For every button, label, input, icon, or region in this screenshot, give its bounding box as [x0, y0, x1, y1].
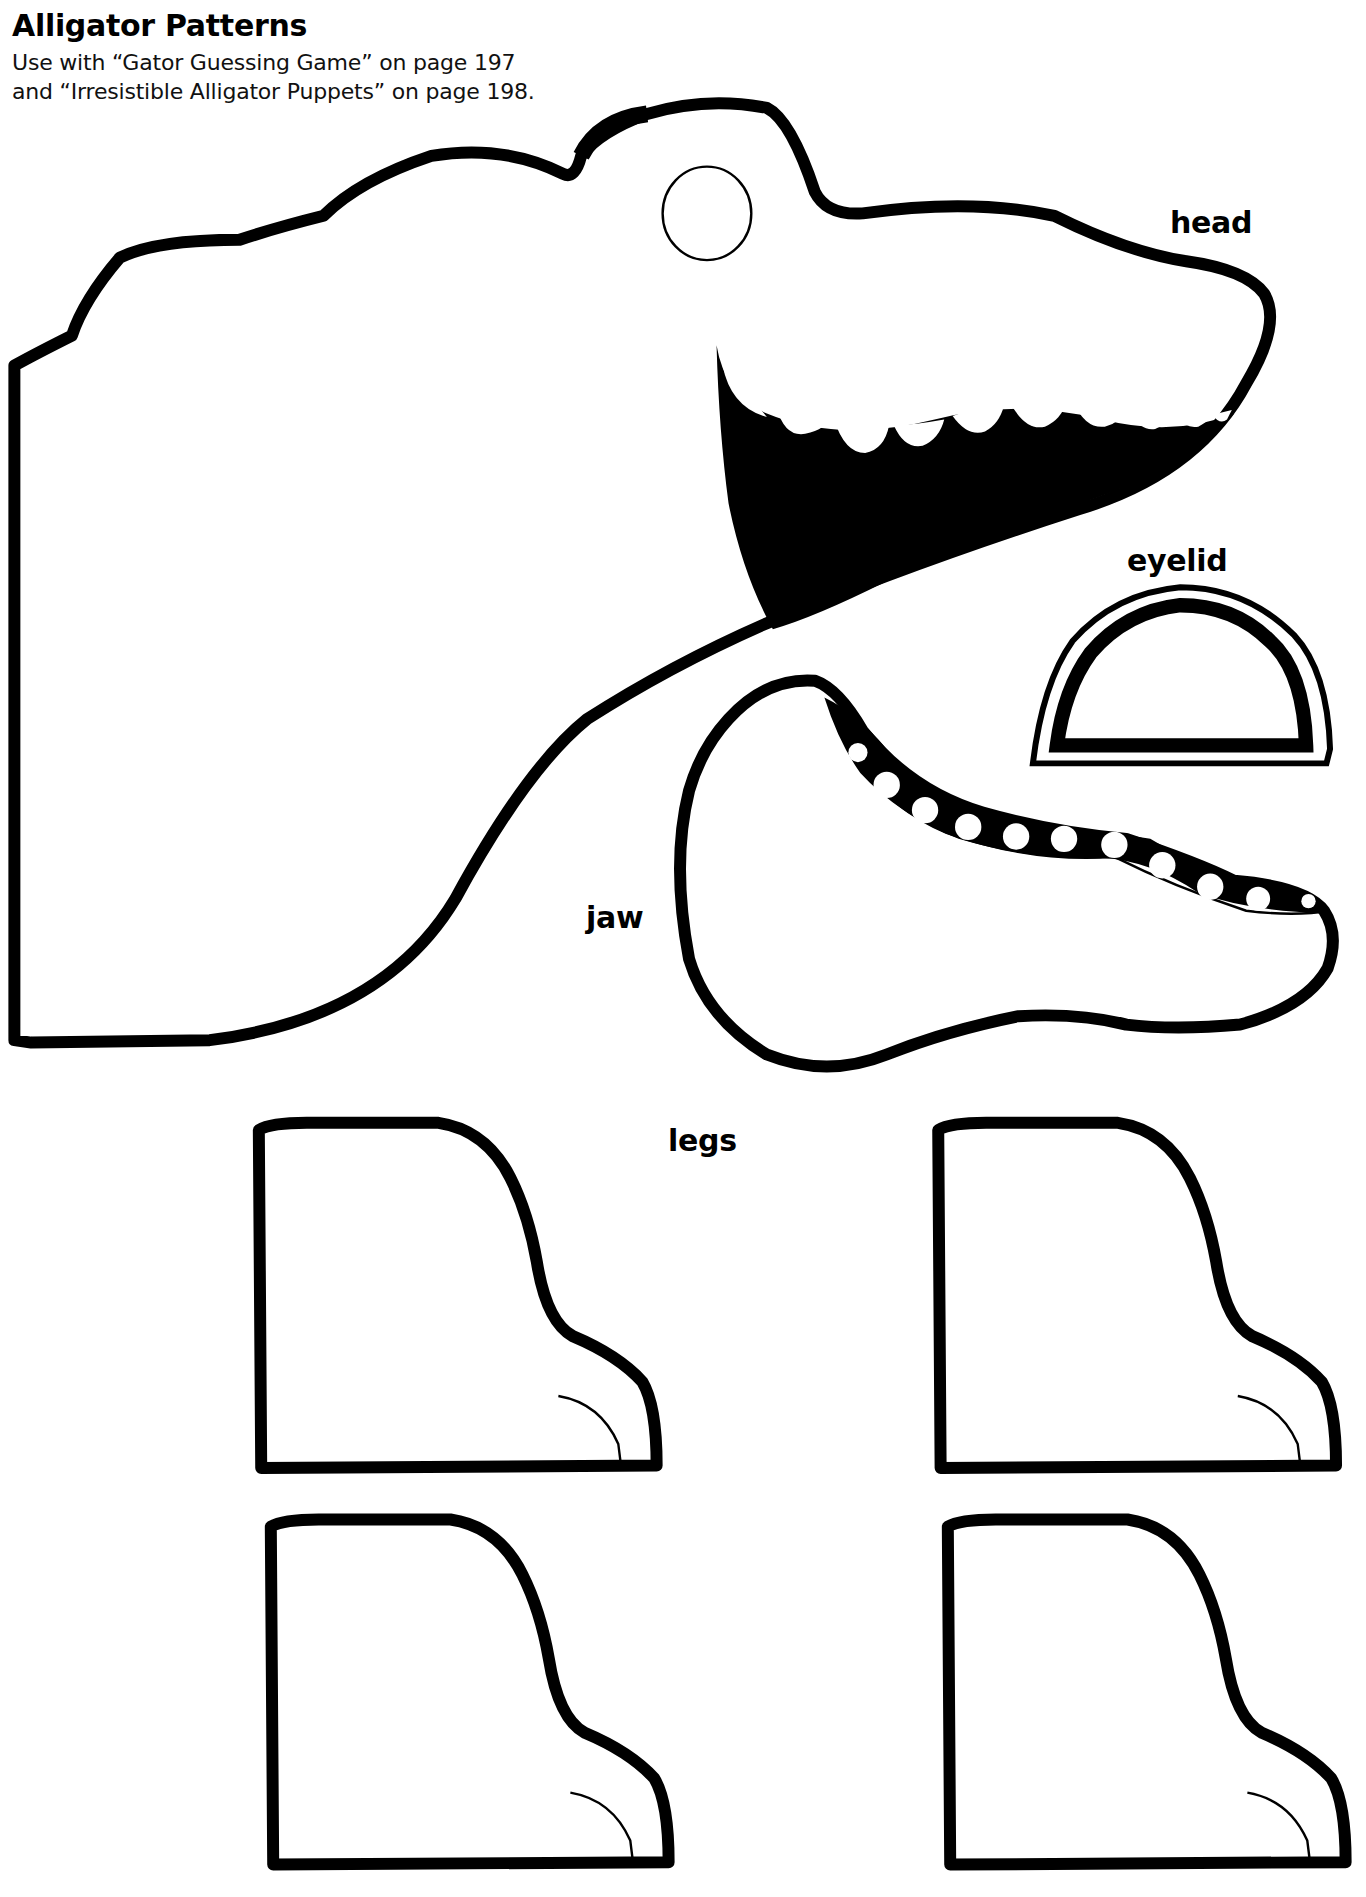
- label-eyelid: eyelid: [1127, 543, 1228, 578]
- eyelid-pattern: [1033, 587, 1330, 763]
- label-jaw: jaw: [586, 900, 643, 935]
- eye-hole: [663, 167, 752, 260]
- label-legs: legs: [668, 1123, 737, 1158]
- leg-pattern-2: [938, 1123, 1336, 1468]
- leg-pattern-3: [271, 1519, 669, 1864]
- leg-pattern-1: [259, 1123, 657, 1468]
- leg-pattern-4: [948, 1519, 1346, 1864]
- label-head: head: [1170, 205, 1252, 240]
- pattern-artwork: [0, 0, 1366, 1897]
